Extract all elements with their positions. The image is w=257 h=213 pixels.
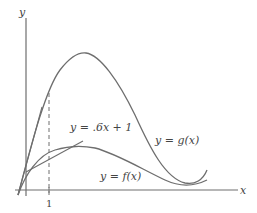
curve-f-label: y = f(x) [99, 170, 141, 183]
x-tick-label-1: 1 [46, 198, 52, 209]
tangent-line-label: y = .6x + 1 [69, 121, 132, 134]
x-axis-label: x [240, 184, 247, 197]
tangent-line [26, 141, 83, 172]
steep-line [18, 107, 42, 195]
curve-g-label: y = g(x) [154, 134, 199, 147]
function-graph: y x 1 y = .6x + 1 y = g(x) y = f(x) [0, 0, 257, 213]
y-axis-label: y [18, 6, 26, 19]
